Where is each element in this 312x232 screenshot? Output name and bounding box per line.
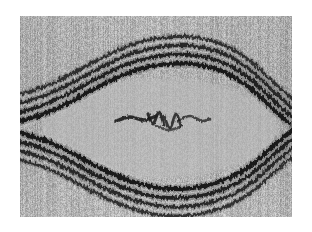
page-root (0, 0, 312, 232)
micrograph-structure-layer (20, 16, 292, 217)
micrograph-frame (20, 16, 292, 217)
